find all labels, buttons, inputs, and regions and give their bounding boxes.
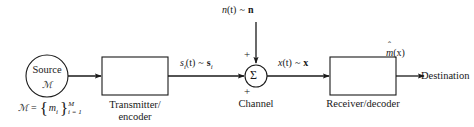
set-body-subscript: i (56, 108, 58, 116)
estimate-output-label: ˆm(x) (386, 48, 405, 58)
destination-label: Destination (421, 71, 469, 82)
set-lhs-symbol: ℳ (18, 102, 28, 113)
received-vector-symbol: x (303, 57, 308, 68)
received-time-arg: (t) (282, 57, 291, 68)
set-open-brace: { (40, 100, 48, 117)
source-circle (26, 55, 68, 97)
transmitter-block (102, 57, 168, 95)
noise-time-arg: (t) (227, 4, 236, 15)
noise-signal-label: n(t)~n (222, 5, 253, 15)
channel-caption: Channel (226, 99, 286, 110)
sigma-symbol: Σ (250, 69, 257, 81)
noise-tilde: ~ (239, 4, 244, 15)
noise-vector-symbol: n (248, 4, 254, 15)
receiver-caption: Receiver/decoder (303, 99, 423, 110)
transmitted-vector-subscript: i (211, 63, 213, 71)
estimate-base-with-hat: ˆm (386, 48, 393, 58)
diagram-canvas: Source ℳ ℳ={mi}Mi = 1 si(t)~si n(t)~n + … (0, 0, 474, 127)
transmitted-time-arg: (t) (186, 57, 195, 68)
set-close-brace: } (60, 100, 68, 117)
transmitter-caption: Transmitter/ encoder (75, 99, 195, 122)
hat-accent-icon: ˆ (388, 41, 391, 50)
transmitter-caption-line1: Transmitter/ (75, 99, 195, 111)
transmitted-tilde: ~ (198, 57, 203, 68)
summer-plus-top: + (244, 49, 250, 60)
set-equals: = (31, 102, 37, 113)
receiver-block (330, 57, 396, 95)
set-superscript: M (68, 100, 74, 108)
received-tilde: ~ (295, 57, 300, 68)
received-signal-label: x(t)~x (278, 58, 308, 68)
estimate-argument: (x) (393, 47, 405, 58)
transmitter-caption-line2: encoder (75, 111, 195, 123)
set-body: m (49, 102, 56, 113)
source-label-symbol: ℳ (17, 79, 77, 90)
transmitted-signal-label: si(t)~si (180, 58, 213, 71)
source-message-set-expression: ℳ={mi}Mi = 1 (18, 100, 82, 117)
source-label-line1: Source (17, 64, 77, 75)
summer-plus-bottom: + (244, 86, 250, 97)
